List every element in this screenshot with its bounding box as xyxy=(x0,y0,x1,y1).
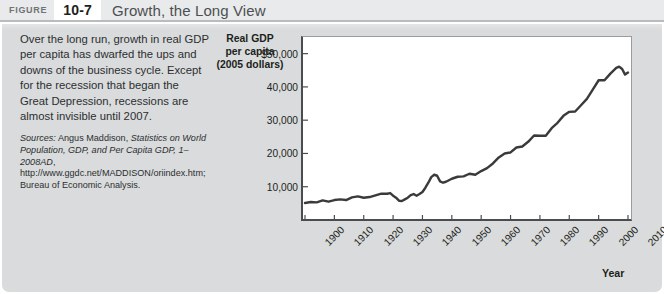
y-axis-tick-label: 30,000 xyxy=(267,115,298,126)
figure-body-panel: Over the long run, growth in real GDP pe… xyxy=(2,24,662,292)
x-axis-tick-label: 1900 xyxy=(323,224,347,248)
y-axis-tick-label: 20,000 xyxy=(267,148,298,159)
figure-container: FIGURE 10-7 Growth, the Long View Over t… xyxy=(0,0,664,294)
gdp-line-chart xyxy=(303,37,632,220)
x-axis-tick-label: 1950 xyxy=(469,224,493,248)
chart-area: Real GDP per capita (2005 dollars) $50,0… xyxy=(2,24,662,292)
x-axis-title: Year xyxy=(602,267,624,279)
y-axis-tick-label: $50,000 xyxy=(261,48,298,59)
figure-label: FIGURE xyxy=(0,5,54,15)
figure-number: 10-7 xyxy=(54,0,101,20)
x-axis-tick-label: 2000 xyxy=(616,224,640,248)
figure-title: Growth, the Long View xyxy=(101,2,266,19)
x-axis-tick-label: 2010 xyxy=(646,224,664,248)
y-axis-tick-label: 40,000 xyxy=(267,81,298,92)
y-axis-tick-label: 10,000 xyxy=(267,181,298,192)
x-axis-tick-label: 1980 xyxy=(558,224,582,248)
data-line-real-gdp-per-capita xyxy=(305,67,628,203)
x-axis-tick-label: 1940 xyxy=(440,224,464,248)
x-axis-tick-label: 1990 xyxy=(587,224,611,248)
x-axis-tick-label: 1960 xyxy=(499,224,523,248)
x-axis-tick-label: 1910 xyxy=(352,224,376,248)
figure-header: FIGURE 10-7 Growth, the Long View xyxy=(0,0,664,22)
x-axis-tick-label: 1930 xyxy=(411,224,435,248)
x-axis-tick-labels: 1900191019201930194019501960197019801990… xyxy=(301,224,641,270)
plot-frame xyxy=(301,36,632,221)
x-axis-tick-label: 1970 xyxy=(528,224,552,248)
y-axis-tick-labels: $50,00040,00030,00020,00010,000 xyxy=(234,36,298,221)
x-axis-tick-label: 1920 xyxy=(381,224,405,248)
